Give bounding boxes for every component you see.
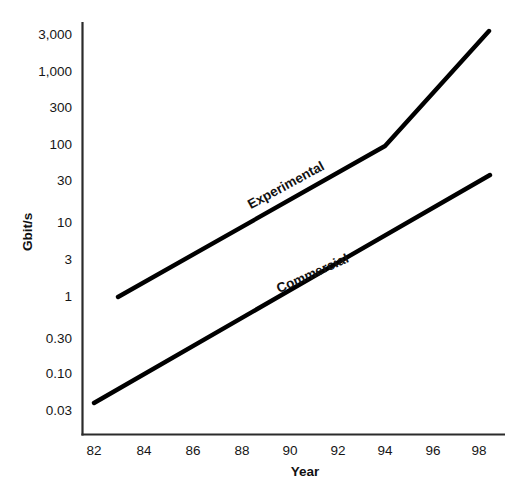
- x-axis-title: Year: [265, 465, 345, 479]
- y-tick-label-3: 3: [10, 253, 72, 267]
- x-tick-label-86: 86: [173, 444, 213, 458]
- y-tick-label-1: 1: [10, 290, 72, 304]
- y-tick-label-0-10: 0.10: [10, 367, 72, 381]
- x-tick-label-94: 94: [365, 444, 405, 458]
- line-chart: 3,000 1,000 300 100 30 10 3 1 0.30 0.10 …: [0, 0, 514, 497]
- x-tick-label-96: 96: [413, 444, 453, 458]
- y-tick-label-30: 30: [10, 174, 72, 188]
- y-tick-label-0-03: 0.03: [10, 404, 72, 418]
- y-tick-label-3000: 3,000: [10, 28, 72, 42]
- x-tick-label-90: 90: [270, 444, 310, 458]
- x-tick-label-84: 84: [124, 444, 164, 458]
- chart-background: [0, 0, 514, 497]
- y-axis-title: Gbit/s: [21, 204, 35, 260]
- y-tick-label-300: 300: [10, 101, 72, 115]
- x-tick-label-82: 82: [74, 444, 114, 458]
- y-tick-label-100: 100: [10, 138, 72, 152]
- plot-area: [0, 0, 514, 497]
- x-tick-label-88: 88: [222, 444, 262, 458]
- y-tick-label-1000: 1,000: [10, 65, 72, 79]
- x-tick-label-98: 98: [459, 444, 499, 458]
- y-tick-label-0-30: 0.30: [10, 332, 72, 346]
- x-tick-label-92: 92: [318, 444, 358, 458]
